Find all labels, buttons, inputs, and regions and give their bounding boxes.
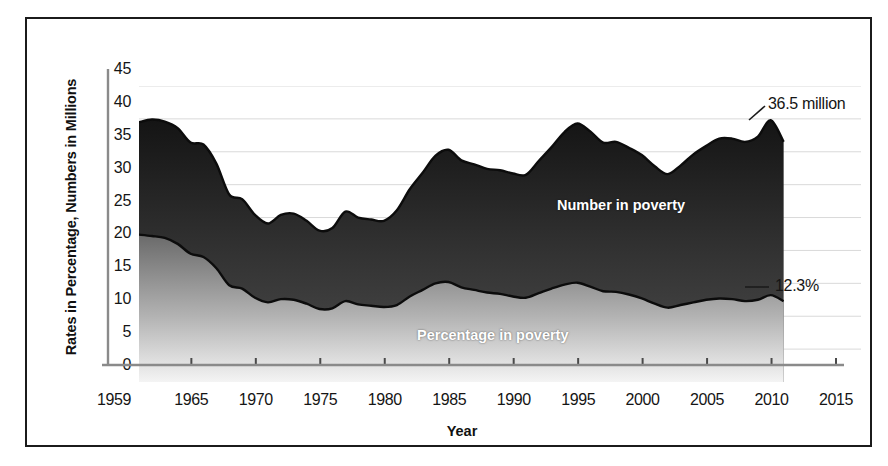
y-axis-title: Rates in Percentage, Numbers in Millions (63, 47, 79, 387)
y-tick-label: 30 (97, 160, 131, 176)
x-tick-label: 1975 (290, 391, 350, 409)
x-tick-label: 1980 (355, 391, 415, 409)
y-axis-tick-labels: 454035302520151050 (87, 19, 131, 449)
x-tick-label: 1990 (484, 391, 544, 409)
x-tick-label: 1985 (419, 391, 479, 409)
x-tick-label: 2005 (677, 391, 737, 409)
x-tick-label: 2010 (742, 391, 802, 409)
y-tick-label: 40 (97, 94, 131, 110)
y-tick-label: 20 (97, 225, 131, 241)
y-tick-label: 15 (97, 258, 131, 274)
y-tick-label: 25 (97, 193, 131, 209)
y-tick-label: 35 (97, 127, 131, 143)
x-axis-title: Year (139, 423, 785, 439)
callout-percentage-in-poverty: 12.3% (775, 277, 819, 295)
x-tick-label: 1995 (548, 391, 608, 409)
x-tick-label: 2015 (806, 391, 866, 409)
figure-frame: Rates in Percentage, Numbers in Millions… (25, 17, 872, 447)
x-tick-label: 2000 (613, 391, 673, 409)
series-label-percentage-in-poverty: Percentage in poverty (417, 327, 569, 343)
y-tick-label: 10 (97, 291, 131, 307)
callout-number-in-poverty: 36.5 million (768, 95, 845, 113)
x-tick-label: 1970 (226, 391, 286, 409)
x-axis-tick-labels: 1959196519701975198019851990199520002005… (27, 391, 874, 415)
series-label-number-in-poverty: Number in poverty (557, 197, 685, 213)
x-tick-label: 1959 (84, 391, 144, 409)
x-tick-label: 1965 (161, 391, 221, 409)
y-tick-label: 45 (97, 61, 131, 77)
y-tick-label: 0 (97, 357, 131, 373)
y-tick-label: 5 (97, 324, 131, 340)
plot-area: Number in poverty Percentage in poverty (139, 86, 861, 382)
poverty-chart-figure: Rates in Percentage, Numbers in Millions… (0, 0, 888, 466)
